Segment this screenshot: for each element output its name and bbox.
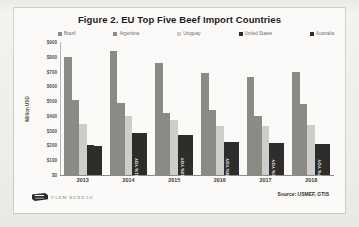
source-note: Source: USMEF, GTIS	[278, 191, 329, 197]
legend-item-australia: Australia	[310, 31, 334, 36]
y-axis-tick: $600	[47, 84, 57, 89]
x-axis-tick-2013: 2013	[60, 177, 106, 183]
bar-united-states-2014: +11% YOY	[132, 133, 140, 175]
y-axis-tick: $0	[52, 173, 57, 178]
legend-label: Brazil	[64, 31, 76, 36]
legend-item-united-states: United States	[239, 31, 273, 36]
y-axis-tick: $400	[47, 113, 57, 118]
farm-bureau-mark-icon	[32, 193, 48, 201]
bar-uruguay-2017	[262, 126, 270, 175]
bar-uruguay-2015	[170, 120, 178, 175]
y-axis-tick: $200	[47, 143, 57, 148]
legend-label: Australia	[316, 31, 334, 36]
y-axis-tick: $900	[47, 40, 57, 45]
legend-swatch-icon	[310, 32, 314, 36]
x-axis-tick-2017: 2017	[243, 177, 289, 183]
bar-annotation-2017: -1% YOY	[271, 159, 276, 177]
x-axis-line	[60, 175, 334, 176]
bar-brazil-2018	[292, 72, 300, 175]
y-axis: Million USD $0$100$200$300$400$500$600$7…	[14, 42, 60, 175]
y-axis-tick: $300	[47, 128, 57, 133]
farm-bureau-label: FARM BUREAU	[51, 195, 94, 200]
y-axis-tick: $500	[47, 99, 57, 104]
bar-brazil-2015	[155, 63, 163, 175]
document-page: Figure 2. EU Top Five Beef Import Countr…	[14, 8, 345, 213]
legend-label: United States	[245, 31, 273, 36]
x-axis-tick-2018: 2018	[288, 177, 334, 183]
bar-argentina-2014	[117, 103, 125, 175]
legend-item-brazil: Brazil	[58, 31, 76, 36]
bar-united-states-2016: -23% YOY	[224, 142, 232, 175]
legend-swatch-icon	[177, 32, 181, 36]
bar-united-states-2017: -1% YOY	[269, 143, 277, 176]
bar-brazil-2016	[201, 73, 209, 175]
x-axis-tick-2016: 2016	[197, 177, 243, 183]
y-axis-label: Million USD	[25, 96, 30, 122]
bar-united-states-2013	[87, 145, 95, 175]
bar-argentina-2013	[72, 100, 80, 175]
legend-item-argentina: Argentina	[113, 31, 139, 36]
legend-item-uruguay: Uruguay	[177, 31, 200, 36]
bar-annotation-2016: -23% YOY	[225, 158, 230, 179]
bar-uruguay-2016	[216, 126, 224, 175]
bar-group-2017: -1% YOY	[243, 42, 289, 175]
y-axis-tick: $100	[47, 158, 57, 163]
bar-uruguay-2014	[125, 116, 133, 175]
bar-groups: +11% YOY+13% YOY-23% YOY-1% YOY-7% YOY	[60, 42, 334, 175]
bar-group-2015: +13% YOY	[151, 42, 197, 175]
chart-title: Figure 2. EU Top Five Beef Import Countr…	[14, 14, 345, 25]
chart-legend: BrazilArgentinaUruguayUnited StatesAustr…	[58, 31, 334, 36]
bar-australia-2018	[322, 144, 330, 175]
bar-uruguay-2013	[79, 124, 87, 175]
legend-swatch-icon	[239, 32, 243, 36]
bar-annotation-2018: -7% YOY	[316, 159, 321, 177]
bar-australia-2015	[185, 135, 193, 175]
legend-swatch-icon	[113, 32, 117, 36]
plot-area: +11% YOY+13% YOY-23% YOY-1% YOY-7% YOY	[60, 42, 334, 175]
bar-australia-2014	[140, 133, 148, 175]
legend-label: Uruguay	[183, 31, 200, 36]
bar-uruguay-2018	[307, 125, 315, 175]
bar-australia-2016	[231, 142, 239, 175]
bar-group-2016: -23% YOY	[197, 42, 243, 175]
legend-swatch-icon	[58, 32, 62, 36]
bar-group-2013	[60, 42, 106, 175]
x-axis-tick-2015: 2015	[151, 177, 197, 183]
bar-united-states-2018: -7% YOY	[315, 144, 323, 175]
bar-brazil-2014	[110, 51, 118, 175]
x-axis: 201320142015201620172018	[60, 177, 334, 183]
bar-group-2018: -7% YOY	[288, 42, 334, 175]
bar-united-states-2015: +13% YOY	[178, 135, 186, 175]
bar-australia-2017	[277, 143, 285, 176]
bar-brazil-2017	[247, 77, 255, 175]
bar-argentina-2015	[163, 113, 171, 175]
farm-bureau-logo: FARM BUREAU	[32, 193, 94, 201]
legend-label: Argentina	[119, 31, 139, 36]
bar-argentina-2017	[254, 116, 262, 175]
bar-australia-2013	[94, 146, 102, 175]
bar-brazil-2013	[64, 57, 72, 175]
bar-argentina-2016	[209, 110, 217, 175]
y-axis-tick: $700	[47, 69, 57, 74]
bar-argentina-2018	[300, 104, 308, 175]
bar-group-2014: +11% YOY	[106, 42, 152, 175]
x-axis-tick-2014: 2014	[106, 177, 152, 183]
y-axis-tick: $800	[47, 54, 57, 59]
